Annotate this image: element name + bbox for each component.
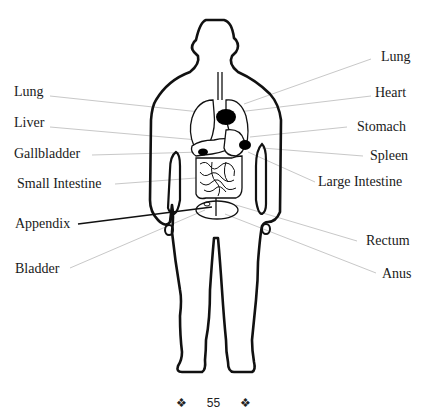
label-anus: Anus — [382, 266, 412, 282]
page-footer: ❖55❖ — [0, 396, 427, 410]
body-diagram — [0, 0, 427, 420]
trachea — [218, 72, 222, 100]
label-heart: Heart — [375, 85, 406, 101]
lung-left-shape — [190, 100, 214, 146]
page-number: 55 — [207, 396, 220, 410]
label-large-intestine: Large Intestine — [318, 174, 402, 190]
spleen-shape — [239, 140, 251, 150]
label-lung-right: Lung — [381, 49, 411, 65]
right-arm — [256, 144, 266, 214]
label-small-intestine: Small Intestine — [17, 176, 101, 192]
label-rectum: Rectum — [366, 233, 410, 249]
small-intestine-shape — [200, 162, 236, 196]
ornament-left-icon: ❖ — [176, 396, 187, 410]
left-arm — [168, 152, 180, 214]
bladder-shape — [196, 201, 238, 219]
label-liver: Liver — [14, 115, 44, 131]
label-appendix: Appendix — [15, 216, 70, 232]
heart-shape — [216, 109, 236, 125]
label-stomach: Stomach — [357, 119, 406, 135]
gallbladder-shape — [198, 149, 208, 156]
label-spleen: Spleen — [370, 148, 408, 164]
label-bladder: Bladder — [15, 261, 59, 277]
label-lung-left: Lung — [14, 84, 44, 100]
ornament-right-icon: ❖ — [240, 396, 251, 410]
label-gallbladder: Gallbladder — [14, 146, 80, 162]
